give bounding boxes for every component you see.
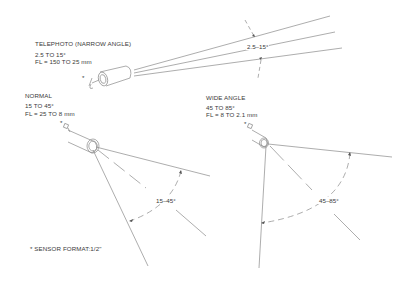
wide-title: WIDE ANGLE (206, 94, 246, 101)
normal-sensor-mark: * (60, 119, 63, 126)
wide-sensor-mark: * (244, 120, 247, 127)
normal-title: NORMAL (25, 92, 52, 99)
wide-camera-icon (247, 123, 268, 148)
normal-camera-icon (63, 123, 99, 153)
sensor-format-footnote: * SENSOR FORMAT:1/2" (30, 245, 101, 252)
telephoto-camera-icon (89, 66, 131, 89)
normal-angle-label: 15–45° (155, 197, 177, 204)
normal-focal-length: FL = 25 TO 8 mm (25, 110, 75, 117)
telephoto-focal-length: FL = 150 TO 25 mm (35, 58, 92, 65)
wide-range: 45 TO 85° (206, 104, 235, 111)
wide-angle-label: 45–85° (318, 197, 340, 204)
telephoto-angle-label: 2.5–15° (246, 43, 269, 50)
telephoto-sensor-mark: * (82, 74, 85, 81)
wide-field-lines (259, 144, 392, 268)
normal-field-lines (93, 147, 210, 266)
wide-angle-arc (262, 153, 350, 223)
telephoto-range: 2.5 TO 15° (35, 51, 66, 58)
telephoto-title: TELEPHOTO (NARROW ANGLE) (35, 40, 131, 47)
wide-focal-length: FL = 8 TO 2.1 mm (206, 111, 258, 118)
normal-range: 15 TO 45° (25, 102, 54, 109)
normal-angle-arc (130, 171, 181, 221)
telephoto-field-lines (134, 16, 342, 76)
